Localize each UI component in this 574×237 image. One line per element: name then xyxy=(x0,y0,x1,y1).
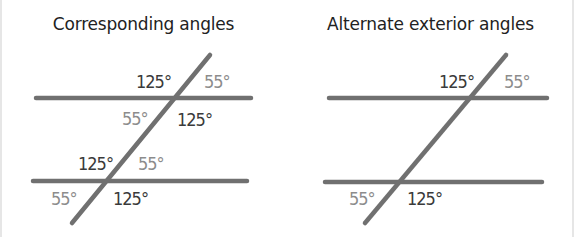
angle-label: 125° xyxy=(113,188,148,209)
angle-label: 55° xyxy=(51,188,77,209)
panel-corresponding-angles: Corresponding angles 125° 55° 55° 125° 1… xyxy=(0,0,287,237)
angle-label: 125° xyxy=(439,71,474,92)
angle-label: 125° xyxy=(136,71,171,92)
angle-label: 55° xyxy=(349,188,375,209)
angle-label: 125° xyxy=(177,109,212,130)
panel-alternate-exterior-angles: Alternate exterior angles 125° 55° 55° 1… xyxy=(287,0,574,237)
angle-label: 55° xyxy=(204,71,230,92)
angle-label: 125° xyxy=(407,188,442,209)
angle-label: 55° xyxy=(504,71,530,92)
alternate-exterior-angles-diagram: 125° 55° 55° 125° xyxy=(287,0,574,237)
angle-label: 55° xyxy=(122,108,148,129)
corresponding-angles-diagram: 125° 55° 55° 125° 125° 55° 55° 125° xyxy=(0,0,287,237)
angle-label: 125° xyxy=(78,153,113,174)
angle-label: 55° xyxy=(138,153,164,174)
